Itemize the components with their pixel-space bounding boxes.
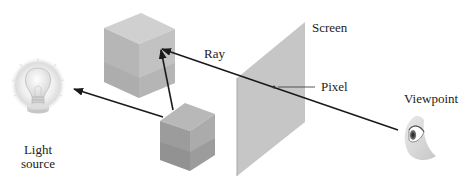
screen-label: Screen	[312, 21, 347, 35]
pixel-point	[273, 86, 276, 89]
diagram-canvas	[0, 0, 468, 181]
light-bulb-icon	[10, 57, 66, 114]
light-source-label-line1: Light	[20, 143, 56, 157]
ray-tracing-diagram: Light source Ray Screen Pixel Viewpoint	[0, 0, 468, 181]
viewpoint-label: Viewpoint	[404, 92, 458, 106]
screen-plane	[237, 22, 305, 176]
light-source-label: Light source	[20, 143, 56, 171]
pixel-label: Pixel	[321, 80, 348, 94]
eye-icon	[405, 116, 436, 160]
cube-upper	[104, 13, 175, 98]
ray-label: Ray	[204, 47, 225, 61]
light-source-label-line2: source	[20, 157, 56, 171]
cube-lower	[160, 103, 215, 171]
